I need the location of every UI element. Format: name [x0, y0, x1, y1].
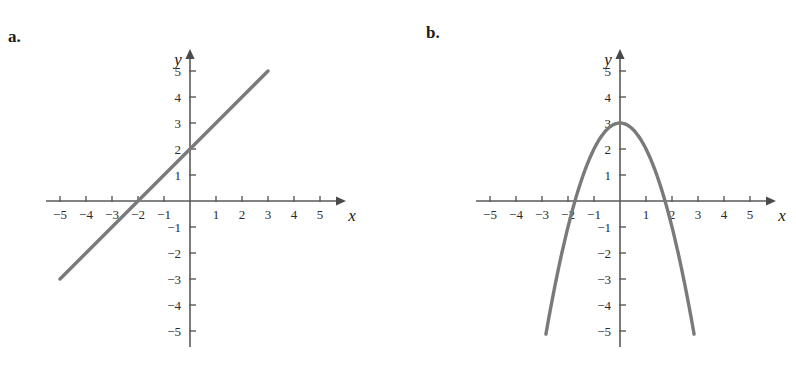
y-axis-tick-label: −5 — [597, 324, 611, 339]
x-axis-tick-label: 5 — [747, 207, 754, 222]
x-axis-label: x — [777, 206, 786, 225]
x-axis-tick-label: 5 — [317, 207, 324, 222]
y-axis-tick-label: 4 — [175, 90, 182, 105]
x-axis-tick-label: 3 — [265, 207, 272, 222]
y-axis-arrow-icon — [615, 49, 624, 59]
x-axis-tick-label: −4 — [509, 207, 523, 222]
x-axis-tick-label: −5 — [53, 207, 67, 222]
x-axis-tick-label: −4 — [79, 207, 93, 222]
x-axis-tick-label: 1 — [643, 207, 650, 222]
y-axis-tick-label: 2 — [175, 142, 182, 157]
x-axis-label: x — [347, 206, 356, 225]
y-axis-tick-label: −2 — [167, 246, 181, 261]
x-axis-tick-label: −3 — [105, 207, 119, 222]
y-axis-tick-label: −3 — [597, 272, 611, 287]
y-axis-tick-label: −5 — [167, 324, 181, 339]
y-axis-tick-label: −4 — [167, 298, 181, 313]
x-axis-tick-label: 1 — [213, 207, 220, 222]
coordinate-plane-a: −5−4−3−2−11234554321−1−2−3−4−5xy — [0, 0, 398, 373]
x-axis-tick-label: 4 — [291, 207, 298, 222]
graph-panel-b: b. −5−4−3−2−11234554321−1−2−3−4−5xy — [398, 0, 796, 373]
y-axis-tick-label: −1 — [167, 220, 181, 235]
y-axis-tick-label: −2 — [597, 246, 611, 261]
x-axis-tick-label: 3 — [695, 207, 702, 222]
y-axis-tick-label: 1 — [605, 168, 612, 183]
y-axis-label: y — [602, 50, 612, 69]
y-axis-label: y — [172, 50, 182, 69]
y-axis-tick-label: 1 — [175, 168, 182, 183]
data-curve — [60, 71, 268, 279]
x-axis-tick-label: 4 — [721, 207, 728, 222]
y-axis-tick-label: −4 — [597, 298, 611, 313]
coordinate-plane-b: −5−4−3−2−11234554321−1−2−3−4−5xy — [398, 0, 796, 373]
y-axis-tick-label: −3 — [167, 272, 181, 287]
x-axis-arrow-icon — [766, 196, 776, 205]
y-axis-tick-label: 3 — [175, 116, 182, 131]
x-axis-tick-label: −2 — [131, 207, 145, 222]
y-axis-tick-label: −1 — [597, 220, 611, 235]
y-axis-tick-label: 4 — [605, 90, 612, 105]
y-axis-tick-label: 2 — [605, 142, 612, 157]
x-axis-tick-label: −5 — [483, 207, 497, 222]
x-axis-tick-label: −3 — [535, 207, 549, 222]
graph-panel-a: a. −5−4−3−2−11234554321−1−2−3−4−5xy — [0, 0, 398, 373]
x-axis-arrow-icon — [336, 196, 346, 205]
y-axis-arrow-icon — [185, 49, 194, 59]
x-axis-tick-label: 2 — [239, 207, 246, 222]
